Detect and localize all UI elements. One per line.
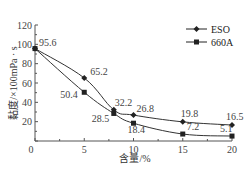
square-marker-icon xyxy=(230,134,235,139)
x-tick-label: 20 xyxy=(227,144,237,155)
data-labels: 95.665.232.226.819.816.550.428.518.47.25… xyxy=(39,37,244,136)
data-label: 28.5 xyxy=(92,113,110,124)
square-marker-icon xyxy=(194,40,199,45)
y-axis-label: 黏度/×100mPa · s xyxy=(7,46,19,120)
diamond-marker-icon xyxy=(194,26,200,32)
x-axis-label: 含量/% xyxy=(119,152,150,164)
data-label: 16.5 xyxy=(226,111,244,122)
square-marker-icon xyxy=(180,132,185,137)
data-label: 7.2 xyxy=(187,121,200,132)
legend-660a: 660A xyxy=(211,37,234,48)
x-tick-label: 5 xyxy=(82,144,87,155)
origin-label: 0 xyxy=(29,144,34,155)
y-tick-label: 120 xyxy=(17,20,32,31)
y-tick-label: 60 xyxy=(22,78,32,89)
viscosity-chart: 5101520020406080100120 95.665.232.226.81… xyxy=(0,0,250,170)
square-marker-icon xyxy=(82,90,87,95)
y-tick-label: 80 xyxy=(22,58,32,69)
y-tick-label: 40 xyxy=(22,97,32,108)
y-tick-label: 100 xyxy=(17,39,32,50)
data-label: 5.1 xyxy=(220,123,233,134)
x-tick-label: 15 xyxy=(178,144,188,155)
data-label: 26.8 xyxy=(137,103,155,114)
legend: ESO 660A xyxy=(186,24,234,48)
data-label: 19.8 xyxy=(181,108,199,119)
legend-eso: ESO xyxy=(211,24,230,35)
y-tick-label: 20 xyxy=(22,116,32,127)
data-label: 65.2 xyxy=(90,66,108,77)
square-marker-icon xyxy=(111,111,116,116)
data-label: 50.4 xyxy=(60,89,78,100)
data-label: 18.4 xyxy=(128,124,146,135)
diamond-marker-icon xyxy=(180,119,186,125)
data-label: 32.2 xyxy=(115,97,133,108)
data-label: 95.6 xyxy=(39,37,57,48)
square-marker-icon xyxy=(33,46,38,51)
